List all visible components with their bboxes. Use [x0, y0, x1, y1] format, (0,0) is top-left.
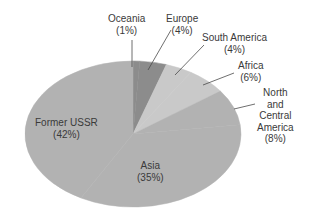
- label-ncam-l4: America: [257, 122, 294, 134]
- label-former-ussr-name: Former USSR: [35, 117, 98, 129]
- label-africa: Africa (6%): [238, 60, 264, 83]
- label-asia-name: Asia: [137, 160, 164, 172]
- leader-line-africa: [203, 73, 234, 85]
- label-former-ussr: Former USSR (42%): [35, 117, 98, 140]
- label-ncam-l1: North: [257, 87, 294, 99]
- label-europe: Europe (4%): [166, 13, 198, 36]
- label-ncam-l3: Central: [257, 110, 294, 122]
- label-ncam-pct: (8%): [257, 133, 294, 145]
- label-north-central-america: North and Central America (8%): [257, 87, 294, 145]
- leader-line-north-central-america: [234, 104, 255, 109]
- label-asia-pct: (35%): [137, 172, 164, 184]
- label-africa-pct: (6%): [238, 72, 264, 84]
- label-oceania-name: Oceania: [108, 13, 145, 25]
- label-europe-pct: (4%): [166, 25, 198, 37]
- label-ncam-l2: and: [257, 99, 294, 111]
- label-south-america-name: South America: [202, 32, 267, 44]
- label-former-ussr-pct: (42%): [35, 129, 98, 141]
- label-asia: Asia (35%): [137, 160, 164, 183]
- label-europe-name: Europe: [166, 13, 198, 25]
- label-south-america: South America (4%): [202, 32, 267, 55]
- leader-line-south-america: [175, 45, 204, 75]
- label-africa-name: Africa: [238, 60, 264, 72]
- label-oceania-pct: (1%): [108, 25, 145, 37]
- label-south-america-pct: (4%): [202, 44, 267, 56]
- label-oceania: Oceania (1%): [108, 13, 145, 36]
